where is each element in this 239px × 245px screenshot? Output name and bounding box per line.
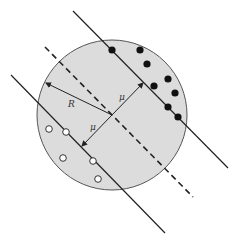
open-point (63, 129, 70, 136)
filled-point (108, 46, 115, 53)
filled-point (150, 82, 157, 89)
radius-label: R (67, 99, 75, 109)
lower-margin-label: μ (90, 122, 96, 132)
filled-point (164, 103, 171, 110)
open-point (46, 126, 53, 133)
filled-point (171, 89, 178, 96)
open-point (90, 158, 97, 165)
open-point (95, 176, 102, 183)
svm-margin-diagram: R μ μ (0, 0, 239, 245)
filled-point (174, 113, 181, 120)
upper-margin-label: μ (119, 92, 125, 102)
filled-point (164, 75, 171, 82)
open-point (60, 155, 67, 162)
filled-point (143, 60, 150, 67)
filled-point (136, 46, 143, 53)
